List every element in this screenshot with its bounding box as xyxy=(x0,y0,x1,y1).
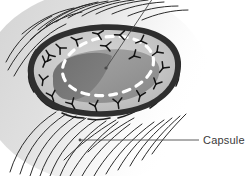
illustration-canvas: Capsule xyxy=(0,0,250,176)
suture-leg xyxy=(118,103,119,108)
capsule-label: Capsule xyxy=(203,134,245,146)
leader-dot-capsule xyxy=(79,139,82,142)
suture-leg xyxy=(101,45,106,46)
suture-leg xyxy=(42,80,43,85)
capsule-illustration-svg: Capsule xyxy=(0,0,250,176)
leader-dot-lesion-pointer xyxy=(104,66,107,69)
